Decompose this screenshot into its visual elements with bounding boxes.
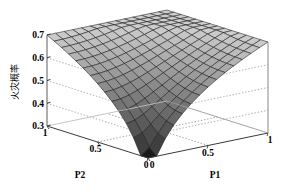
p2-axis-title: P2 [75, 170, 86, 180]
p1-tick-label: 0 [150, 160, 155, 170]
z-axis-title: 火灾概率 [9, 64, 20, 100]
z-tick-label: 0.7 [32, 30, 44, 40]
z-tick-label: 0.5 [32, 76, 44, 86]
p1-tick-label: 0.5 [202, 148, 214, 158]
p2-tick-label: 0 [144, 160, 149, 170]
p1-tick-label: 1 [268, 135, 273, 145]
p2-tick-label: 0.5 [90, 144, 102, 154]
p1-axis-title: P1 [210, 170, 221, 180]
z-tick-label: 0.4 [32, 99, 44, 109]
p2-tick-label: 1 [43, 128, 48, 138]
surface-plot-canvas: 0.30.40.50.60.7火灾概率10.50P200.51P1 [0, 0, 287, 193]
figure-3d-surface-plot: 0.30.40.50.60.7火灾概率10.50P200.51P1 [0, 0, 287, 193]
z-tick-label: 0.6 [32, 53, 44, 63]
